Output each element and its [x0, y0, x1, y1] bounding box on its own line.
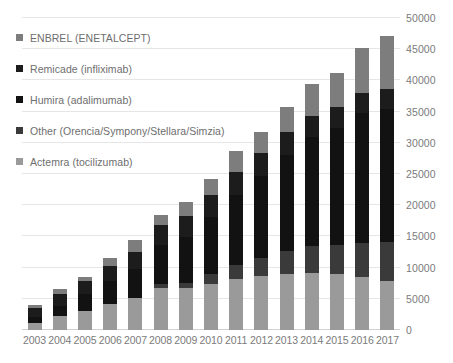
bar-segment — [103, 304, 117, 330]
x-axis-tick-label: 2011 — [225, 334, 247, 346]
bar-segment — [380, 89, 394, 108]
x-axis-tick-label: 2006 — [99, 334, 122, 346]
bar-segment — [229, 279, 243, 330]
x-axis-tick-label: 2015 — [326, 334, 349, 346]
y-axis-tick-label: 20000 — [406, 199, 436, 211]
bar-segment — [280, 274, 294, 330]
x-axis-tick-label: 2013 — [275, 334, 298, 346]
legend-item[interactable]: Actemra (tocilizumab) — [16, 146, 226, 177]
y-axis-tick-label: 40000 — [406, 74, 436, 86]
bar-segment — [103, 281, 117, 303]
bar-segment — [355, 277, 369, 330]
stacked-bar-chart: 0500010000150002000025000300003500040000… — [0, 0, 453, 363]
bar-segment — [128, 298, 142, 330]
bar-segment — [204, 179, 218, 195]
bar-segment — [380, 109, 394, 243]
bar-column[interactable] — [380, 36, 394, 331]
bar-segment — [204, 274, 218, 284]
bar-segment — [154, 215, 168, 226]
bar-column[interactable] — [128, 240, 142, 330]
bar-column[interactable] — [355, 48, 369, 330]
bar-segment — [78, 281, 92, 294]
bar-segment — [280, 155, 294, 252]
x-axis-tick-label: 2004 — [48, 334, 71, 346]
bar-segment — [103, 266, 117, 281]
bar-column[interactable] — [28, 305, 42, 330]
legend-swatch-icon — [16, 96, 23, 103]
bar-segment — [103, 258, 117, 266]
legend-swatch-icon — [16, 34, 23, 41]
bar-column[interactable] — [305, 84, 319, 330]
x-axis-tick-label: 2003 — [23, 334, 46, 346]
bar-segment — [355, 93, 369, 113]
bar-segment — [154, 245, 168, 284]
y-axis-tick-label: 15000 — [406, 230, 436, 242]
bar-segment — [330, 274, 344, 330]
bar-segment — [254, 132, 268, 154]
bar-segment — [355, 113, 369, 243]
bar-segment — [305, 116, 319, 137]
y-axis-tick-label: 35000 — [406, 106, 436, 118]
bar-segment — [330, 107, 344, 128]
legend-item-label: Remicade (infliximab) — [30, 63, 132, 75]
legend-item[interactable]: ENBREL (ENETALCEPT) — [16, 22, 226, 53]
bar-segment — [305, 84, 319, 116]
bar-column[interactable] — [204, 179, 218, 330]
legend-item[interactable]: Humira (adalimumab) — [16, 84, 226, 115]
legend-item-label: Other (Orencia/Sympony/Stellara/Simzia) — [30, 125, 225, 137]
bar-segment — [254, 153, 268, 175]
y-axis-tick-label: 25000 — [406, 168, 436, 180]
bar-segment — [204, 284, 218, 330]
y-axis-tick-label: 50000 — [406, 12, 436, 24]
legend-item-label: Actemra (tocilizumab) — [30, 156, 133, 168]
bar-column[interactable] — [280, 107, 294, 330]
bar-segment — [179, 237, 193, 283]
x-axis-tick-label: 2007 — [124, 334, 147, 346]
bar-column[interactable] — [78, 277, 92, 330]
x-axis-tick-label: 2016 — [351, 334, 374, 346]
bar-column[interactable] — [154, 215, 168, 330]
bar-segment — [305, 273, 319, 330]
bar-column[interactable] — [103, 258, 117, 330]
bar-segment — [305, 246, 319, 272]
y-axis-tick-label: 30000 — [406, 137, 436, 149]
bar-segment — [330, 73, 344, 107]
legend-swatch-icon — [16, 158, 23, 165]
bar-segment — [380, 281, 394, 330]
bar-segment — [254, 258, 268, 277]
x-axis-tick-label: 2010 — [200, 334, 223, 346]
x-axis-tick-label: 2005 — [74, 334, 97, 346]
bar-segment — [355, 243, 369, 277]
x-axis-tick-label: 2012 — [250, 334, 273, 346]
y-axis-tick-label: 5000 — [406, 293, 430, 305]
bar-column[interactable] — [229, 151, 243, 330]
bar-column[interactable] — [254, 132, 268, 330]
bar-segment — [229, 151, 243, 172]
x-axis-tick-label: 2008 — [149, 334, 172, 346]
bar-segment — [330, 128, 344, 245]
bar-segment — [229, 265, 243, 280]
legend-item[interactable]: Other (Orencia/Sympony/Stellara/Simzia) — [16, 115, 226, 146]
bar-segment — [53, 294, 67, 306]
bar-segment — [229, 195, 243, 264]
bar-segment — [53, 306, 67, 316]
bar-segment — [229, 172, 243, 195]
bar-segment — [355, 48, 369, 93]
legend-item-label: ENBREL (ENETALCEPT) — [30, 32, 151, 44]
y-axis-tick-label: 10000 — [406, 262, 436, 274]
bar-segment — [254, 276, 268, 330]
legend-item[interactable]: Remicade (infliximab) — [16, 53, 226, 84]
bar-segment — [128, 269, 142, 298]
bar-segment — [380, 242, 394, 281]
legend-swatch-icon — [16, 65, 23, 72]
bar-segment — [179, 288, 193, 330]
bar-segment — [78, 311, 92, 330]
bar-column[interactable] — [330, 73, 344, 330]
bar-column[interactable] — [179, 202, 193, 330]
bar-segment — [128, 240, 142, 252]
bar-segment — [204, 217, 218, 274]
bar-segment — [280, 107, 294, 132]
bar-segment — [28, 308, 42, 317]
chart-legend: ENBREL (ENETALCEPT)Remicade (infliximab)… — [16, 22, 226, 177]
bar-column[interactable] — [53, 289, 67, 330]
